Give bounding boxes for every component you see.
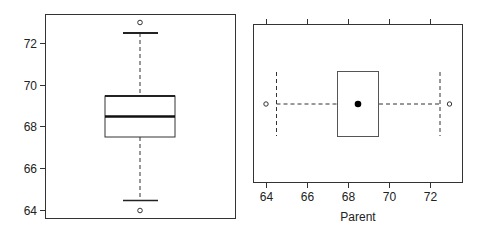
- left-ytick-68: 68: [24, 120, 38, 134]
- right-x-axis-title: Parent: [340, 210, 376, 224]
- right-xtick-70: 70: [383, 190, 397, 204]
- left-ytick-64: 64: [24, 204, 38, 218]
- right-boxplot-panel: 64 66 68 70 72 Parent: [254, 19, 463, 224]
- left-ytick-70: 70: [24, 79, 38, 93]
- right-median-dot: [355, 101, 362, 108]
- right-outlier-low: [264, 102, 268, 106]
- left-ytick-66: 66: [24, 162, 38, 176]
- right-xtick-66: 66: [301, 190, 315, 204]
- right-outlier-high: [447, 102, 451, 106]
- left-y-axis: [40, 44, 45, 211]
- left-outlier-low: [138, 208, 143, 213]
- right-xtick-64: 64: [260, 190, 274, 204]
- chart-canvas: 64 66 68 70 72: [0, 0, 487, 231]
- right-xtick-68: 68: [342, 190, 356, 204]
- left-ytick-72: 72: [24, 37, 38, 51]
- left-outlier-high: [138, 20, 143, 25]
- left-boxplot-panel: 64 66 68 70 72: [24, 15, 236, 219]
- right-top-ticks: [267, 19, 431, 24]
- right-xtick-72: 72: [424, 190, 438, 204]
- right-x-axis: [267, 183, 431, 188]
